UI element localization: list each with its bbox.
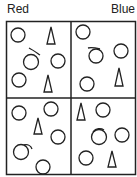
triangle-icon: [44, 75, 52, 92]
circle-icon: [76, 25, 90, 39]
triangle-icon: [108, 151, 116, 167]
marked-circle-icon: [88, 48, 103, 63]
circle-icon: [44, 102, 58, 116]
circle-icon: [51, 130, 65, 144]
circle-icon: [36, 160, 50, 174]
marked-circle-icon: [24, 48, 41, 70]
circle-icon: [51, 54, 65, 68]
cell-top-right: [76, 25, 128, 91]
triangle-icon: [115, 68, 123, 86]
circle-icon: [12, 106, 26, 120]
triangle-icon: [77, 103, 85, 120]
circle-icon: [11, 28, 25, 42]
shape-grid-diagram: [0, 0, 137, 177]
triangle-icon: [47, 27, 55, 44]
circle-icon: [12, 73, 26, 87]
cell-bottom-left: [12, 102, 65, 174]
circle-icon: [96, 103, 110, 117]
circle-icon: [114, 44, 128, 58]
cell-bottom-right: [77, 103, 129, 167]
marked-circle-icon: [14, 145, 33, 160]
cell-top-left: [11, 27, 65, 92]
circle-icon: [80, 77, 94, 91]
triangle-icon: [34, 118, 42, 134]
marked-circle-icon: [92, 129, 107, 145]
circle-icon: [79, 151, 93, 165]
circle-icon: [115, 128, 129, 142]
